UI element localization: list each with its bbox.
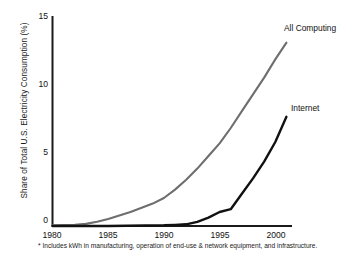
footnote-line-2: infrastructure.: [277, 242, 317, 249]
series-label-all-computing: All Computing: [284, 24, 336, 32]
footnote-line-1: * Includes kWh in manufacturing, operati…: [38, 242, 275, 249]
series-line-all-computing: [53, 43, 287, 226]
plot-area: [0, 0, 352, 270]
series-label-internet: Internet: [291, 104, 319, 112]
axis-lines: [52, 16, 292, 227]
chart-footnote: * Includes kWh in manufacturing, operati…: [38, 241, 328, 251]
chart-container: Share of Total U.S. Electricity Consumpt…: [0, 0, 352, 270]
series-line-internet: [53, 117, 287, 226]
